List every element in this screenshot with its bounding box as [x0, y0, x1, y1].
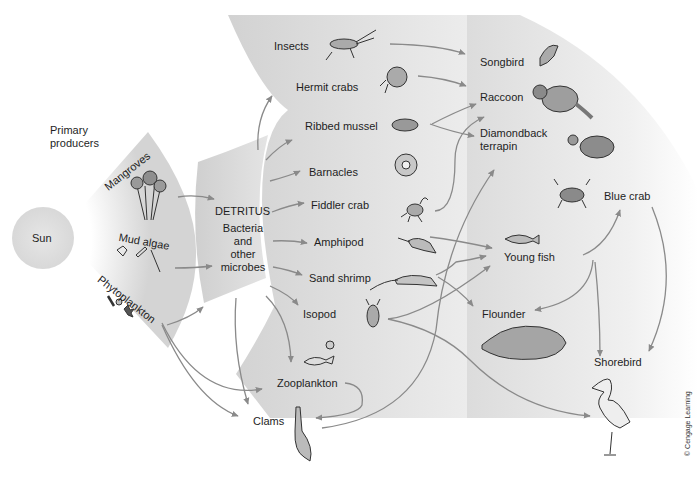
microbes-line: microbes	[220, 261, 266, 274]
zooplankton-label: Zooplankton	[277, 377, 338, 390]
copyright-credit: © Cengage Learning	[684, 391, 691, 456]
detritus-label: DETRITUS	[215, 205, 270, 218]
clams-label: Clams	[253, 415, 284, 428]
insects-label: Insects	[274, 40, 309, 53]
barnacles-label: Barnacles	[309, 166, 358, 179]
mussel-icon	[392, 119, 418, 131]
hermit-crabs-label: Hermit crabs	[296, 81, 358, 94]
microbes-line: other	[220, 248, 266, 261]
heading-line-2: producers	[50, 137, 99, 150]
microbes-line: and	[220, 235, 266, 248]
raccoon-label: Raccoon	[480, 91, 523, 104]
detritus-microbes-label: Bacteria and other microbes	[220, 222, 266, 274]
young-fish-label: Young fish	[504, 251, 555, 264]
heading-line-1: Primary	[50, 124, 99, 137]
terrapin-line: terrapin	[480, 140, 547, 153]
amphipod-label: Amphipod	[314, 236, 364, 249]
isopod-label: Isopod	[303, 308, 336, 321]
sun-label: Sun	[32, 232, 52, 245]
blue-crab-label: Blue crab	[604, 190, 650, 203]
primary-producers-heading: Primary producers	[50, 124, 99, 150]
fiddler-crab-label: Fiddler crab	[311, 199, 369, 212]
barnacle-icon	[395, 154, 417, 176]
diamondback-terrapin-label: Diamondback terrapin	[480, 127, 547, 153]
shorebird-label: Shorebird	[594, 356, 642, 369]
ribbed-mussel-label: Ribbed mussel	[305, 120, 378, 133]
sand-shrimp-label: Sand shrimp	[309, 272, 371, 285]
terrapin-line: Diamondback	[480, 127, 547, 140]
detritus-zone	[195, 135, 268, 303]
flounder-label: Flounder	[482, 308, 525, 321]
microbes-line: Bacteria	[220, 222, 266, 235]
songbird-label: Songbird	[480, 56, 524, 69]
